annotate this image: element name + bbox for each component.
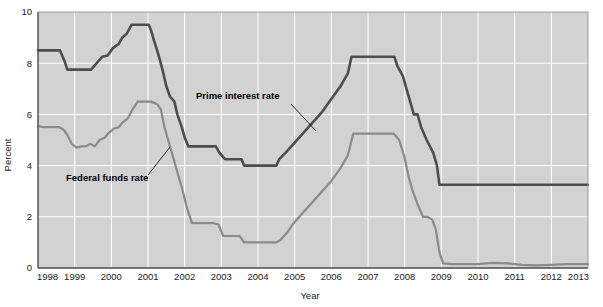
y-tick-label: 4 — [27, 160, 32, 171]
y-tick-label: 8 — [27, 58, 32, 69]
interest-rate-line-chart: 0246810 19981999200020012002200320042005… — [0, 0, 603, 307]
x-tick-label: 2006 — [321, 271, 342, 282]
plot-background-group — [38, 12, 588, 268]
x-tick-label: 2011 — [504, 271, 524, 282]
x-tick-label: 2001 — [137, 271, 158, 282]
x-tick-label: 2010 — [467, 271, 488, 282]
x-tick-label: 2008 — [394, 271, 415, 282]
prime-interest-rate-label: Prime interest rate — [196, 90, 279, 101]
x-tick-label: 1998 — [37, 271, 58, 282]
x-tick-label: 1999 — [64, 271, 85, 282]
x-tick-label: 2004 — [247, 271, 268, 282]
x-axis-tick-labels: 1998199920002001200220032004200520062007… — [37, 271, 589, 282]
x-tick-label: 2000 — [101, 271, 122, 282]
x-tick-label: 2003 — [211, 271, 232, 282]
x-tick-label: 2009 — [431, 271, 452, 282]
x-tick-label: 2005 — [284, 271, 305, 282]
y-tick-label: 2 — [27, 211, 32, 222]
chart-container: 0246810 19981999200020012002200320042005… — [0, 0, 603, 307]
y-tick-label: 0 — [27, 262, 32, 273]
y-tick-label: 6 — [27, 109, 32, 120]
y-axis-tick-labels: 0246810 — [21, 6, 32, 273]
x-tick-label: 2007 — [357, 271, 378, 282]
y-tick-label: 10 — [21, 6, 32, 17]
x-axis-title: Year — [300, 290, 319, 301]
x-tick-label: 2012 — [541, 271, 562, 282]
x-tick-label: 2013 — [568, 271, 589, 282]
plot-area-background — [38, 12, 588, 268]
y-axis-title: Percent — [2, 138, 13, 171]
federal-funds-rate-label: Federal funds rate — [66, 172, 148, 183]
x-tick-label: 2002 — [174, 271, 195, 282]
